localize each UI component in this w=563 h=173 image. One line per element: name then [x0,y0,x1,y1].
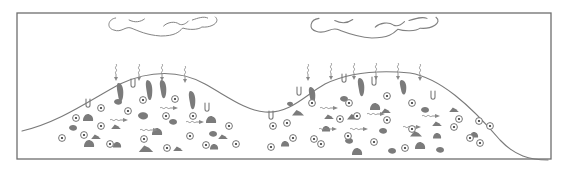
organism-icon [337,116,344,123]
organism-icon [476,118,483,125]
diagram-canvas [0,0,563,173]
organism-icon [384,93,391,100]
organism-icon [311,136,318,143]
organism-icon [346,100,353,107]
organism-icon [59,135,66,142]
organism-icon [190,113,197,120]
organism-icon [187,133,194,140]
organism-icon [345,133,352,140]
organism-icon [270,123,277,130]
organism-icon [477,140,484,147]
organism-icon [141,136,148,143]
organism-icon [164,145,171,152]
organism-icon [140,97,147,104]
organism-icon [290,135,297,142]
organism-icon [402,145,409,152]
organism-icon [268,144,275,151]
organism-icon [284,120,291,127]
soil-infiltration-diagram [0,0,563,173]
organism-icon [456,116,463,123]
organism-icon [163,113,170,120]
organism-icon [384,117,391,124]
organism-icon [409,100,416,107]
organism-icon [371,139,378,146]
organism-icon [73,115,80,122]
organism-icon [318,141,325,148]
organism-icon [125,108,132,115]
organism-icon [107,141,114,148]
organism-icon [487,123,494,130]
organism-icon [467,135,474,142]
organism-icon [81,132,88,139]
organism-icon [451,124,458,131]
organism-icon [354,113,361,120]
organism-icon [233,141,240,148]
organism-icon [226,123,233,130]
organism-icon [98,123,105,130]
organism-icon [98,105,105,112]
organism-icon [409,126,416,133]
organism-icon [172,96,179,103]
organism-icon [309,100,316,107]
organism-icon [203,142,210,149]
